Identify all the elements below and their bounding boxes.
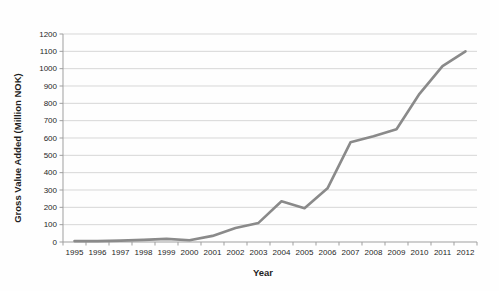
x-tick-label: 1997 <box>112 248 130 257</box>
x-tick-label: 1996 <box>89 248 107 257</box>
x-tick-label: 2007 <box>342 248 360 257</box>
x-tick-label: 2011 <box>434 248 452 257</box>
x-tick-label: 2005 <box>296 248 314 257</box>
line-chart: 0100200300400500600700800900100011001200… <box>0 0 499 291</box>
y-tick-label: 0 <box>53 238 58 247</box>
y-tick-label: 400 <box>44 168 58 177</box>
x-axis-title: Year <box>253 267 273 278</box>
x-tick-label: 2008 <box>365 248 383 257</box>
x-tick-label: 1995 <box>66 248 84 257</box>
x-tick-label: 2010 <box>411 248 429 257</box>
gridlines <box>63 34 477 225</box>
y-axis-title: Gross Value Added (Million NOK) <box>12 73 23 223</box>
y-tick-label: 700 <box>44 116 58 125</box>
y-tick-label: 1100 <box>40 47 58 56</box>
x-tick-label: 2004 <box>273 248 291 257</box>
y-tick-label: 600 <box>44 134 58 143</box>
y-tick-label: 900 <box>44 82 58 91</box>
x-tick-label: 2000 <box>181 248 199 257</box>
chart-canvas: 0100200300400500600700800900100011001200… <box>0 0 499 291</box>
x-tick-label: 2003 <box>250 248 268 257</box>
y-tick-label: 1200 <box>39 30 57 39</box>
x-tick-label: 2006 <box>319 248 337 257</box>
y-tick-label: 800 <box>44 99 58 108</box>
y-tick-label: 200 <box>44 203 58 212</box>
y-tick-label: 300 <box>44 186 58 195</box>
x-tick-label: 1998 <box>135 248 153 257</box>
x-tick-label: 2002 <box>227 248 245 257</box>
y-tick-label: 100 <box>44 220 58 229</box>
x-tick-label: 2009 <box>388 248 406 257</box>
y-tick-label: 1000 <box>39 64 57 73</box>
data-series <box>75 51 466 241</box>
series-line <box>75 51 466 241</box>
x-tick-label: 2012 <box>457 248 475 257</box>
x-tick-label: 1999 <box>158 248 176 257</box>
x-tick-label: 2001 <box>204 248 222 257</box>
y-tick-label: 500 <box>44 151 58 160</box>
